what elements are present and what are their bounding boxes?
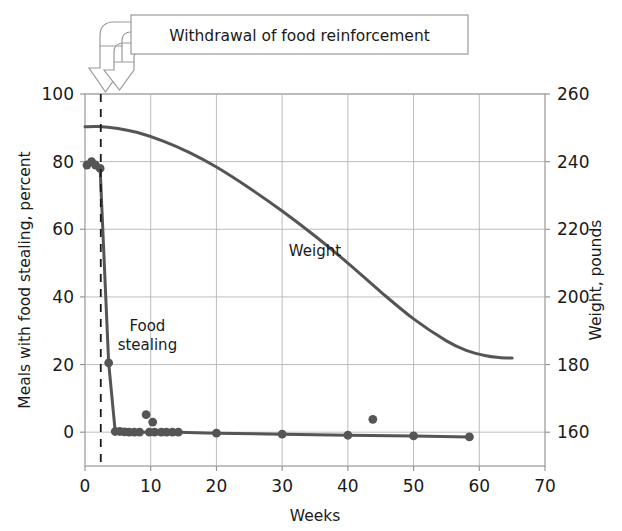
y-left-tick-label: 100 bbox=[42, 84, 74, 104]
data-point bbox=[465, 433, 474, 442]
data-point bbox=[174, 428, 183, 437]
chart-canvas: 010203040506070 020406080100 16018020022… bbox=[0, 0, 622, 531]
y-left-tick-label: 20 bbox=[52, 355, 74, 375]
series-label-weight: Weight bbox=[289, 242, 341, 260]
x-tick-label: 10 bbox=[140, 476, 162, 496]
y-left-tick-label: 80 bbox=[52, 152, 74, 172]
data-point bbox=[135, 428, 144, 437]
x-tick-label: 30 bbox=[271, 476, 293, 496]
y-axis-right-title: Weight, pounds bbox=[587, 220, 605, 341]
y-right-tick-label: 160 bbox=[557, 422, 589, 442]
y-right-tick-label: 240 bbox=[557, 152, 589, 172]
callout-annotation: Withdrawal of food reinforcement bbox=[89, 15, 468, 92]
x-tick-label: 60 bbox=[468, 476, 490, 496]
data-point bbox=[104, 358, 113, 367]
data-point bbox=[142, 410, 151, 419]
data-point bbox=[148, 418, 157, 427]
y-right-tick-label: 180 bbox=[557, 355, 589, 375]
data-point bbox=[409, 432, 418, 441]
callout-label: Withdrawal of food reinforcement bbox=[169, 27, 430, 45]
data-point bbox=[343, 431, 352, 440]
y-left-tick-label: 60 bbox=[52, 219, 74, 239]
x-tick-label: 70 bbox=[534, 476, 556, 496]
y-axis-left-title: Meals with food stealing, percent bbox=[16, 151, 34, 408]
y-right-tick-label: 260 bbox=[557, 84, 589, 104]
y-axis-left-ticks: 020406080100 bbox=[42, 84, 85, 442]
y-left-tick-label: 0 bbox=[63, 422, 74, 442]
plot-frame bbox=[85, 94, 545, 466]
x-tick-label: 0 bbox=[80, 476, 91, 496]
data-point bbox=[212, 429, 221, 438]
chart-figure: 010203040506070 020406080100 16018020022… bbox=[0, 0, 622, 531]
x-tick-label: 40 bbox=[337, 476, 359, 496]
y-right-tick-label: 220 bbox=[557, 219, 589, 239]
x-axis-ticks: 010203040506070 bbox=[80, 466, 556, 496]
x-axis-title: Weeks bbox=[290, 507, 341, 525]
x-tick-label: 20 bbox=[206, 476, 228, 496]
series-label-food-stealing: stealing bbox=[118, 336, 177, 354]
data-point bbox=[368, 415, 377, 424]
y-axis-right-ticks: 160180200220240260 bbox=[545, 84, 589, 442]
y-left-tick-label: 40 bbox=[52, 287, 74, 307]
series-label-food-stealing: Food bbox=[129, 317, 165, 335]
y-right-tick-label: 200 bbox=[557, 287, 589, 307]
data-point bbox=[278, 430, 287, 439]
x-tick-label: 50 bbox=[403, 476, 425, 496]
